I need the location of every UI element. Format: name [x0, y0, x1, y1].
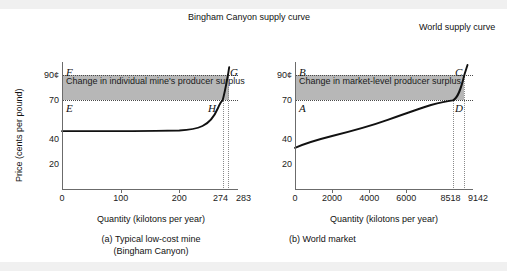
figure-root: Price (cents per pound) Bingham Canyon s…: [0, 0, 507, 271]
x-tick-8518-b: 8518: [440, 193, 460, 203]
x-tick-200-a: 200: [172, 193, 187, 203]
point-label-F: F: [66, 66, 73, 78]
plot-area-b: Change in market-level producer surplus …: [295, 62, 473, 190]
caption-a: (a) Typical low-cost mine (Bingham Canyo…: [56, 233, 246, 257]
x-axis-line-a: [62, 189, 238, 190]
x-tick-9142-b: 9142: [468, 193, 488, 203]
point-label-D: D: [455, 102, 463, 114]
y-tick-90-a: 90¢: [44, 70, 59, 80]
x-tick-100-a: 100: [113, 193, 128, 203]
supply-curve-label-a: Bingham Canyon supply curve: [188, 12, 258, 23]
y-tick-20-b: 20: [282, 159, 292, 169]
y-tick-70-a: 70: [49, 95, 59, 105]
x-axis-line-b: [295, 189, 473, 190]
x-tick-274-a: 274: [213, 193, 228, 203]
y-tick-20-a: 20: [49, 159, 59, 169]
x-tick-0-a: 0: [59, 193, 64, 203]
supply-curve-label-b: World supply curve: [419, 22, 485, 33]
y-axis-line-a: [62, 62, 63, 190]
x-tick-4000-b: 4000: [359, 193, 379, 203]
y-tick-90-b: 90¢: [277, 70, 292, 80]
x-axis-title-b: Quantity (kilotons per year): [289, 214, 479, 224]
supply-curve-a: [62, 62, 238, 190]
supply-curve-b: [295, 62, 473, 190]
x-tick-6000-b: 6000: [396, 193, 416, 203]
y-axis-title-a: Price (cents per pound): [14, 88, 24, 182]
panel-typical-low-cost-mine: Price (cents per pound) Bingham Canyon s…: [0, 0, 254, 271]
point-label-B: B: [299, 66, 306, 78]
panel-world-market: World supply curve Change in market-leve…: [253, 0, 507, 271]
point-label-A: A: [299, 102, 306, 114]
point-label-E: E: [66, 102, 73, 114]
y-tick-40-a: 40: [49, 134, 59, 144]
plot-area-a: Change in individual mine's producer sur…: [62, 62, 238, 190]
y-axis-line-b: [295, 62, 296, 190]
point-label-C: C: [455, 66, 462, 78]
point-label-G: G: [230, 66, 238, 78]
y-tick-40-b: 40: [282, 134, 292, 144]
caption-b: (b) World market: [289, 233, 479, 245]
x-axis-title-a: Quantity (kilotons per year): [56, 214, 246, 224]
x-tick-0-b: 0: [292, 193, 297, 203]
x-tick-2000-b: 2000: [322, 193, 342, 203]
y-tick-70-b: 70: [282, 95, 292, 105]
x-tick-283-a: 283: [236, 193, 251, 203]
point-label-H: H: [208, 102, 216, 114]
